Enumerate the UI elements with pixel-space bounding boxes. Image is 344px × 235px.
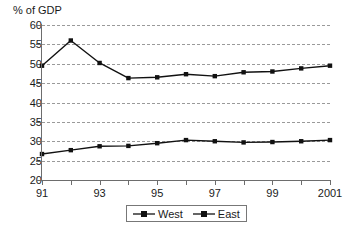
- x-tick-label: 2001: [318, 187, 342, 199]
- x-tick-mark: [128, 180, 129, 185]
- line-chart: % of GDP 202530354045505560 919395979920…: [0, 0, 344, 235]
- data-point-marker: [328, 63, 332, 67]
- y-axis-line: [41, 24, 42, 181]
- x-tick-mark: [71, 180, 72, 185]
- data-point-marker: [184, 72, 188, 76]
- x-tick-mark: [301, 180, 302, 185]
- data-point-marker: [213, 139, 217, 143]
- x-tick-mark: [330, 180, 331, 185]
- data-point-marker: [270, 69, 274, 73]
- legend-marker-icon: [133, 209, 155, 219]
- data-point-marker: [155, 141, 159, 145]
- x-tick-label: 97: [209, 187, 221, 199]
- data-point-marker: [241, 140, 245, 144]
- data-point-marker: [97, 61, 101, 65]
- chart-legend: West East: [126, 205, 247, 222]
- x-tick-mark: [244, 180, 245, 185]
- data-point-marker: [69, 38, 73, 42]
- data-point-marker: [213, 74, 217, 78]
- data-point-marker: [299, 66, 303, 70]
- data-point-marker: [184, 138, 188, 142]
- legend-item-east[interactable]: East: [193, 208, 240, 220]
- series-west: [40, 138, 332, 156]
- legend-marker-icon: [193, 209, 215, 219]
- x-tick-mark: [157, 180, 158, 185]
- x-tick-label: 91: [36, 187, 48, 199]
- data-point-marker: [155, 75, 159, 79]
- x-tick-mark: [186, 180, 187, 185]
- data-point-marker: [270, 140, 274, 144]
- data-point-marker: [299, 139, 303, 143]
- legend-item-west[interactable]: West: [133, 208, 183, 220]
- x-tick-label: 93: [93, 187, 105, 199]
- series-layer: [42, 25, 330, 180]
- x-tick-mark: [272, 180, 273, 185]
- legend-label-east: East: [218, 208, 240, 220]
- data-point-marker: [126, 144, 130, 148]
- series-east: [40, 38, 332, 80]
- legend-label-west: West: [158, 208, 183, 220]
- x-tick-mark: [42, 180, 43, 185]
- data-point-marker: [241, 70, 245, 74]
- plot-area: [42, 25, 330, 180]
- data-point-marker: [126, 76, 130, 80]
- data-point-marker: [328, 138, 332, 142]
- data-point-marker: [97, 144, 101, 148]
- x-tick-mark: [215, 180, 216, 185]
- x-tick-mark: [100, 180, 101, 185]
- data-point-marker: [69, 148, 73, 152]
- x-tick-label: 95: [151, 187, 163, 199]
- x-tick-label: 99: [266, 187, 278, 199]
